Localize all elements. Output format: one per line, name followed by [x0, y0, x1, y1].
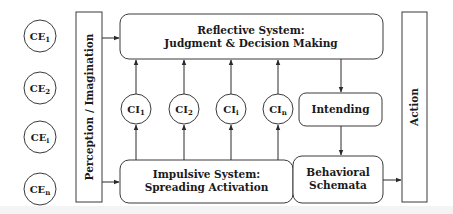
- ci-node-i: CIi: [216, 94, 246, 124]
- intending-box: Intending: [299, 93, 382, 126]
- ce-node-n: CEn: [24, 173, 56, 205]
- external-entities: CE1 CE2 CEi CEn: [24, 20, 56, 205]
- intending-label: Intending: [311, 103, 370, 115]
- reflective-system-box: Reflective System: Judgment & Decision M…: [120, 14, 383, 59]
- diagram-canvas: CE1 CE2 CEi CEn Perception / Imagination…: [0, 0, 453, 214]
- reflective-subtitle: Judgment & Decision Making: [163, 37, 338, 49]
- behavioral-schemata-box: Behavioral Schemata: [293, 156, 383, 203]
- impulsive-subtitle: Spreading Activation: [145, 181, 269, 193]
- behavioral-title: Behavioral: [306, 166, 369, 178]
- ci-node-1: CI1: [121, 94, 151, 124]
- reflective-title: Reflective System:: [197, 24, 305, 36]
- action-box: Action: [402, 12, 427, 202]
- ci-node-2: CI2: [169, 94, 199, 124]
- ce-node-1: CE1: [24, 20, 56, 52]
- impulsive-title: Impulsive System:: [153, 168, 260, 180]
- ce-node-i: CEi: [24, 121, 56, 153]
- perception-label: Perception / Imagination: [83, 33, 95, 180]
- impulsive-system-box: Impulsive System: Spreading Activation: [120, 160, 293, 203]
- behavioral-subtitle: Schemata: [309, 179, 367, 191]
- ce-node-2: CE2: [24, 72, 56, 104]
- internal-concepts: CI1 CI2 CIi CIn: [121, 94, 293, 124]
- action-label: Action: [408, 88, 420, 127]
- bottom-margin-strip: [0, 206, 453, 214]
- ci-node-n: CIn: [263, 94, 293, 124]
- perception-box: Perception / Imagination: [76, 12, 102, 202]
